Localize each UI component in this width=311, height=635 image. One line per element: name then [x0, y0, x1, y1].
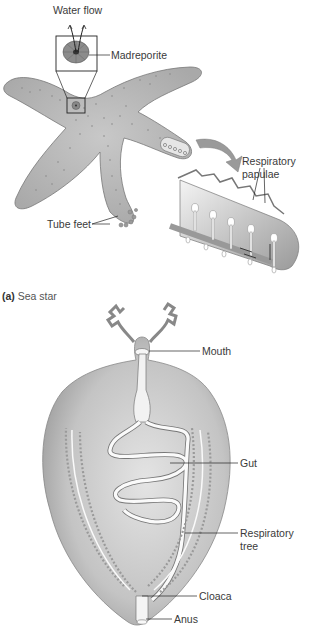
- label-anus: Anus: [174, 613, 198, 625]
- label-respiratory-tree-1: Respiratory: [240, 527, 294, 539]
- madreporite-inset: [56, 25, 97, 71]
- label-mouth: Mouth: [202, 345, 231, 357]
- label-respiratory-tree-2: tree: [240, 540, 258, 552]
- label-cloaca: Cloaca: [199, 590, 232, 602]
- label-respiratory-papulae-2: papulae: [242, 168, 279, 180]
- label-respiratory-papulae-1: Respiratory: [242, 155, 296, 167]
- caption-text-a: Sea star: [18, 290, 57, 302]
- sea-star-body: [4, 67, 202, 227]
- label-madreporite: Madreporite: [111, 49, 167, 61]
- label-water-flow: Water flow: [53, 4, 102, 16]
- arm-cross-section: [170, 170, 299, 273]
- label-gut: Gut: [240, 457, 257, 469]
- caption-letter-a: (a): [2, 290, 15, 302]
- label-tube-feet: Tube feet: [47, 218, 91, 230]
- caption-panel-a: (a) Sea star: [2, 290, 57, 302]
- curved-arrow: [196, 139, 242, 172]
- diagram-illustration: [0, 0, 311, 635]
